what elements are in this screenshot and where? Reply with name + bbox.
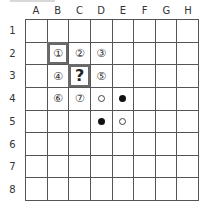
board-cell-c2[interactable]: ②	[68, 42, 90, 65]
board-cell-h1[interactable]	[176, 19, 198, 42]
board-cell-h8[interactable]	[176, 177, 198, 200]
white-stone-icon	[98, 95, 105, 102]
board-cell-g5[interactable]	[155, 110, 177, 133]
board-cell-e7[interactable]	[112, 155, 134, 178]
column-label-f: F	[134, 4, 156, 18]
board-cell-b4[interactable]: ⑥	[47, 87, 69, 110]
move-number: ③	[96, 48, 106, 59]
board-cell-a3[interactable]	[25, 64, 47, 87]
column-label-d: D	[90, 4, 112, 18]
board-cell-b7[interactable]	[47, 155, 69, 178]
board-cell-a4[interactable]	[25, 87, 47, 110]
board-cell-e3[interactable]	[112, 64, 134, 87]
board-cell-a2[interactable]	[25, 42, 47, 65]
white-stone-icon	[119, 118, 126, 125]
board-cell-c3[interactable]: ?	[68, 64, 90, 87]
board-cell-c4[interactable]: ⑦	[68, 87, 90, 110]
board-cell-d1[interactable]	[90, 19, 112, 42]
board-cell-g8[interactable]	[155, 177, 177, 200]
board-cell-f7[interactable]	[133, 155, 155, 178]
board-cell-c1[interactable]	[68, 19, 90, 42]
board-cell-a7[interactable]	[25, 155, 47, 178]
column-label-c: C	[69, 4, 91, 18]
row-label-8: 8	[0, 178, 25, 201]
board-cell-g2[interactable]	[155, 42, 177, 65]
board-cell-b8[interactable]	[47, 177, 69, 200]
board-cell-g6[interactable]	[155, 132, 177, 155]
board-cell-f3[interactable]	[133, 64, 155, 87]
board-cell-c5[interactable]	[68, 110, 90, 133]
board-cell-a6[interactable]	[25, 132, 47, 155]
column-label-a: A	[25, 4, 47, 18]
board-cell-f6[interactable]	[133, 132, 155, 155]
board-cell-e1[interactable]	[112, 19, 134, 42]
board-cell-h3[interactable]	[176, 64, 198, 87]
board-cell-g4[interactable]	[155, 87, 177, 110]
board-cell-d7[interactable]	[90, 155, 112, 178]
board-cell-f4[interactable]	[133, 87, 155, 110]
move-number: ⑤	[96, 71, 106, 82]
row-label-2: 2	[0, 42, 25, 65]
board-cell-e5[interactable]	[112, 110, 134, 133]
board-cell-a1[interactable]	[25, 19, 47, 42]
move-number: ⑥	[53, 93, 63, 104]
board-cell-d4[interactable]	[90, 87, 112, 110]
row-label-4: 4	[0, 87, 25, 110]
row-label-5: 5	[0, 110, 25, 133]
move-number: ①	[53, 48, 63, 59]
board-cell-f2[interactable]	[133, 42, 155, 65]
board-cell-c6[interactable]	[68, 132, 90, 155]
board-cell-d6[interactable]	[90, 132, 112, 155]
board-cell-e2[interactable]	[112, 42, 134, 65]
board-cell-e8[interactable]	[112, 177, 134, 200]
row-label-3: 3	[0, 65, 25, 88]
board-cell-g3[interactable]	[155, 64, 177, 87]
row-label-7: 7	[0, 156, 25, 179]
board-cell-f1[interactable]	[133, 19, 155, 42]
board-cell-b5[interactable]	[47, 110, 69, 133]
board-cell-g7[interactable]	[155, 155, 177, 178]
board-cell-d5[interactable]	[90, 110, 112, 133]
board-cell-h7[interactable]	[176, 155, 198, 178]
game-board: ①②③④?⑤⑥⑦	[25, 19, 199, 201]
column-labels: A B C D E F G H	[25, 4, 199, 18]
board-cell-d3[interactable]: ⑤	[90, 64, 112, 87]
board-cell-f8[interactable]	[133, 177, 155, 200]
row-label-1: 1	[0, 19, 25, 42]
column-label-e: E	[112, 4, 134, 18]
move-number: ④	[53, 71, 63, 82]
top-divider	[10, 0, 55, 2]
board-cell-b1[interactable]	[47, 19, 69, 42]
board-cell-b2[interactable]: ①	[47, 42, 69, 65]
board-cell-c7[interactable]	[68, 155, 90, 178]
board-cell-f5[interactable]	[133, 110, 155, 133]
board-cell-c8[interactable]	[68, 177, 90, 200]
black-stone-icon	[98, 118, 105, 125]
board-cell-a5[interactable]	[25, 110, 47, 133]
board-cell-d8[interactable]	[90, 177, 112, 200]
board-cell-b3[interactable]: ④	[47, 64, 69, 87]
board-cell-a8[interactable]	[25, 177, 47, 200]
move-number: ②	[75, 48, 85, 59]
black-stone-icon	[119, 95, 126, 102]
board-cell-h2[interactable]	[176, 42, 198, 65]
board-cell-b6[interactable]	[47, 132, 69, 155]
row-label-6: 6	[0, 133, 25, 156]
row-labels: 1 2 3 4 5 6 7 8	[0, 19, 25, 201]
board-cell-d2[interactable]: ③	[90, 42, 112, 65]
board-cell-h4[interactable]	[176, 87, 198, 110]
board-cell-e6[interactable]	[112, 132, 134, 155]
board-cell-e4[interactable]	[112, 87, 134, 110]
column-label-g: G	[156, 4, 178, 18]
column-label-b: B	[47, 4, 69, 18]
move-number: ⑦	[75, 93, 85, 104]
question-mark: ?	[75, 68, 84, 84]
board-cell-g1[interactable]	[155, 19, 177, 42]
board-cell-h5[interactable]	[176, 110, 198, 133]
board-cell-h6[interactable]	[176, 132, 198, 155]
column-label-h: H	[177, 4, 199, 18]
